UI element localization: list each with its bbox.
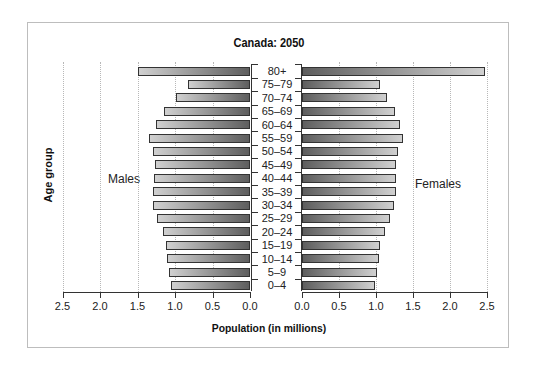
male-bar-65–69: [164, 107, 250, 116]
female-bar-75–79: [302, 80, 380, 89]
age-group-label: 65–69: [252, 105, 302, 117]
bracket-tick: [251, 91, 258, 92]
female-bar-45–49: [302, 160, 396, 169]
bracket-tick: [295, 265, 302, 266]
bracket-tick: [295, 78, 302, 79]
male-bar-30–34: [153, 201, 250, 210]
tick-mark: [339, 292, 340, 298]
male-bar-70–74: [176, 93, 250, 102]
bracket-tick: [251, 105, 258, 106]
bracket-tick: [251, 212, 258, 213]
age-group-label: 35–39: [252, 186, 302, 198]
bracket-tick: [251, 64, 258, 65]
bracket-tick: [251, 225, 258, 226]
y-axis-label: Age group: [42, 148, 54, 203]
tick-label: 0.0: [294, 300, 309, 312]
male-bar-25–29: [157, 214, 250, 223]
female-bar-30–34: [302, 201, 394, 210]
age-group-label: 45–49: [252, 159, 302, 171]
female-bar-20–24: [302, 227, 385, 236]
age-group-label: 50–54: [252, 145, 302, 157]
male-bar-15–19: [166, 241, 250, 250]
bracket-tick: [295, 131, 302, 132]
bracket-tick: [251, 279, 258, 280]
x-axis-label: Population (in millions): [27, 322, 511, 334]
bracket-tick: [251, 78, 258, 79]
bracket-tick: [295, 279, 302, 280]
female-bar-5–9: [302, 268, 377, 277]
tick-label: 1.5: [130, 300, 145, 312]
tick-mark: [138, 292, 139, 298]
gridline: [138, 62, 139, 292]
females-label: Females: [415, 177, 461, 191]
female-bar-15–19: [302, 241, 380, 250]
male-bar-0–4: [171, 281, 250, 290]
x-axis-left: [63, 292, 251, 293]
male-bar-60–64: [156, 120, 250, 129]
bracket-tick: [251, 172, 258, 173]
bracket-tick: [295, 91, 302, 92]
age-group-label: 25–29: [252, 212, 302, 224]
gridline: [63, 62, 64, 292]
male-bar-40–44: [154, 174, 250, 183]
age-group-label: 75–79: [252, 78, 302, 90]
bracket-tick: [295, 145, 302, 146]
female-bar-35–39: [302, 187, 396, 196]
female-bar-10–14: [302, 254, 379, 263]
female-bar-60–64: [302, 120, 400, 129]
tick-label: 2.0: [442, 300, 457, 312]
tick-mark: [487, 292, 488, 298]
tick-label: 0.0: [242, 300, 257, 312]
bracket-tick: [295, 64, 302, 65]
tick-mark: [302, 292, 303, 298]
x-axis-right: [302, 292, 487, 293]
bracket-tick: [295, 225, 302, 226]
male-bar-5–9: [169, 268, 250, 277]
tick-label: 2.5: [55, 300, 70, 312]
age-group-label: 20–24: [252, 226, 302, 238]
female-bar-70–74: [302, 93, 387, 102]
male-bar-20–24: [163, 227, 250, 236]
gridline: [413, 62, 414, 292]
female-bar-80+: [302, 67, 485, 76]
tick-mark: [63, 292, 64, 298]
age-group-label: 5–9: [252, 266, 302, 278]
age-group-label: 80+: [252, 65, 302, 77]
age-group-label: 60–64: [252, 119, 302, 131]
tick-mark: [413, 292, 414, 298]
bracket-tick: [295, 198, 302, 199]
bracket-tick: [295, 172, 302, 173]
bracket-tick: [295, 118, 302, 119]
age-group-label: 70–74: [252, 92, 302, 104]
bracket-tick: [251, 118, 258, 119]
bracket-tick: [295, 239, 302, 240]
age-group-label: 30–34: [252, 199, 302, 211]
tick-mark: [450, 292, 451, 298]
tick-label: 0.5: [205, 300, 220, 312]
age-group-label: 15–19: [252, 239, 302, 251]
age-group-label: 0–4: [252, 279, 302, 291]
gridline: [450, 62, 451, 292]
bracket-tick: [295, 252, 302, 253]
female-bar-50–54: [302, 147, 398, 156]
tick-label: 1.0: [368, 300, 383, 312]
bracket-tick: [295, 158, 302, 159]
male-bar-35–39: [153, 187, 250, 196]
tick-mark: [175, 292, 176, 298]
tick-label: 1.0: [167, 300, 182, 312]
gridline: [487, 62, 488, 292]
age-group-label: 55–59: [252, 132, 302, 144]
male-bar-50–54: [153, 147, 250, 156]
female-bar-55–59: [302, 134, 403, 143]
bracket-tick: [295, 185, 302, 186]
gridline: [100, 62, 101, 292]
female-bar-65–69: [302, 107, 395, 116]
bracket-tick: [251, 158, 258, 159]
bracket-tick: [251, 145, 258, 146]
tick-mark: [213, 292, 214, 298]
male-bar-55–59: [149, 134, 250, 143]
age-group-label: 40–44: [252, 172, 302, 184]
male-bar-80+: [138, 67, 251, 76]
bracket-tick: [295, 105, 302, 106]
males-label: Males: [108, 172, 140, 186]
